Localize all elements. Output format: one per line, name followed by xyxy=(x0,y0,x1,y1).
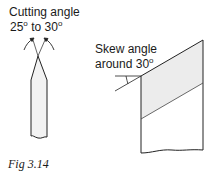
cutting-angle-connector: to xyxy=(31,20,41,34)
degree-mark: o xyxy=(23,19,27,28)
cutting-angle-to: 30 xyxy=(45,20,58,34)
skew-angle-marker xyxy=(115,76,141,91)
degree-mark: o xyxy=(58,19,62,28)
degree-mark: o xyxy=(149,56,153,65)
skew-angle-title: Skew angle xyxy=(95,43,157,56)
skew-angle-prefix: around xyxy=(95,57,132,71)
cutting-angle-title: Cutting angle xyxy=(9,6,80,19)
cutting-angle-arrows xyxy=(24,38,54,56)
skew-angle-number: 30 xyxy=(136,57,149,71)
figure-caption: Fig 3.14 xyxy=(8,157,49,172)
cutting-angle-range: 25o to 30o xyxy=(10,21,62,34)
chisel-front-view xyxy=(31,56,47,138)
cutting-angle-from: 25 xyxy=(10,20,23,34)
skew-angle-value: around 30o xyxy=(95,58,154,71)
